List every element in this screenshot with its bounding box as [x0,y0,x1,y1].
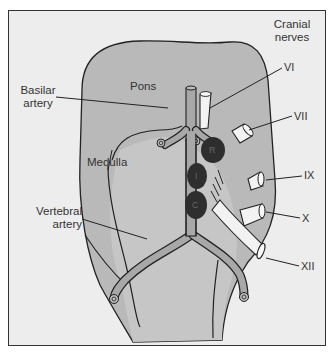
vertebral-artery-right-end [240,293,249,302]
label-medulla: Medulla [87,156,127,169]
label-vertebral-line2: artery [22,218,82,231]
label-basilar-artery: Basilar artery [14,84,62,110]
leader-xii [266,258,299,266]
label-nerve-vi: VI [284,61,294,74]
label-nerve-ix: IX [304,169,314,182]
label-basilar-line1: Basilar [14,84,62,97]
label-cranial-line2: nerves [262,31,322,44]
label-nerve-xii: XII [301,260,314,273]
label-basilar-line2: artery [14,97,62,110]
brainstem-illustration [0,0,336,356]
label-nerve-vii: VII [294,110,307,123]
label-vertebral-line1: Vertebral [22,205,82,218]
label-nucleus-r: R [209,144,216,157]
label-vertebral-artery: Vertebral artery [22,205,82,231]
label-cranial-nerves: Cranial nerves [262,18,322,44]
label-pons: Pons [130,80,156,93]
label-cranial-line1: Cranial [262,18,322,31]
vertebral-artery-left-end [110,295,119,304]
label-nucleus-c: C [192,199,199,212]
label-nerve-x: X [302,212,309,225]
label-nucleus-i: I [195,170,198,183]
